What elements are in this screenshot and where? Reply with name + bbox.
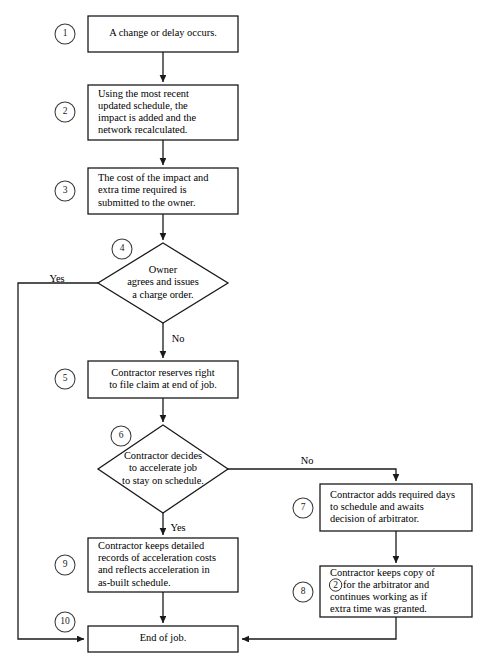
node-text-line: to stay on schedule. <box>122 475 204 486</box>
branch-label-no4: No <box>172 333 185 344</box>
node-text-line: impact is added and the <box>98 112 196 123</box>
flow-node-5[interactable]: Contractor reserves rightto file claim a… <box>55 361 238 398</box>
nodes-layer: A change or delay occurs.1Using the most… <box>55 16 472 652</box>
step-badge-number-10: 10 <box>60 616 70 626</box>
step-badge-number-1: 1 <box>63 28 68 38</box>
flow-node-10[interactable]: End of job.10 <box>55 612 238 652</box>
branch-label-yes6: Yes <box>170 522 185 533</box>
step-badge-number-8: 8 <box>301 586 306 596</box>
step-badge-number-4: 4 <box>120 243 125 253</box>
node-text-line: Contractor decides <box>124 450 202 461</box>
flow-node-9[interactable]: Contractor keeps detailedrecords of acce… <box>55 538 238 592</box>
node-text-line: extra time was granted. <box>330 603 427 614</box>
flowchart-canvas: A change or delay occurs.1Using the most… <box>0 0 484 666</box>
node-text-line: agrees and issues <box>127 276 199 287</box>
node-text-line: submitted to the owner. <box>98 197 196 208</box>
connector-c8-10 <box>242 617 396 639</box>
node-text-line: continues working as if <box>330 591 428 602</box>
connector-c6-no <box>228 469 396 481</box>
node-text-line: A change or delay occurs. <box>109 27 217 38</box>
flow-node-3[interactable]: The cost of the impact andextra time req… <box>55 168 238 214</box>
branch-label-no6: No <box>301 455 314 466</box>
step-badge-number-3: 3 <box>63 185 68 195</box>
node-text-line: Contractor adds required days <box>330 489 455 500</box>
step-badge-number-5: 5 <box>63 373 68 383</box>
node-text-line: updated schedule, the <box>98 100 188 111</box>
flowchart-container: A change or delay occurs.1Using the most… <box>0 0 484 666</box>
node-text-line: and reflects acceleration in <box>98 564 210 575</box>
step-badge-number-9: 9 <box>63 559 68 569</box>
flow-node-2[interactable]: Using the most recentupdated schedule, t… <box>55 85 238 140</box>
flow-node-4[interactable]: Owneragrees and issuesa charge order.4 <box>98 239 228 323</box>
node-text-line: to accelerate job <box>129 462 197 473</box>
node-text-line: decision of arbitrator. <box>330 513 419 524</box>
branch-label-yes4: Yes <box>49 273 64 284</box>
flow-node-6[interactable]: Contractor decidesto accelerate jobto st… <box>98 425 228 513</box>
flow-node-7[interactable]: Contractor adds required daysto schedule… <box>293 484 472 531</box>
flow-node-1[interactable]: A change or delay occurs.1 <box>55 16 238 52</box>
node-text-line: network recalculated. <box>98 124 187 135</box>
node-text-line: records of acceleration costs <box>98 552 216 563</box>
flow-node-8[interactable]: Contractor keeps copy of2for the arbitra… <box>293 566 472 617</box>
node-text-line: to schedule and awaits <box>330 501 424 512</box>
step-badge-number-6: 6 <box>119 430 124 440</box>
step-badge-number-7: 7 <box>301 502 306 512</box>
node-text-line: for the arbitrator and <box>343 579 430 590</box>
step-badge-number-2: 2 <box>63 106 68 116</box>
inline-step-ref-number: 2 <box>333 580 338 590</box>
node-text-line: The cost of the impact and <box>98 172 209 183</box>
node-text-line: extra time required is <box>98 184 187 195</box>
node-text-line: End of job. <box>140 632 186 643</box>
node-text-line: Using the most recent <box>98 88 189 99</box>
node-text-line: Contractor keeps copy of <box>330 567 435 578</box>
node-text-line: Contractor keeps detailed <box>98 540 205 551</box>
node-text-line: as-built schedule. <box>98 577 171 588</box>
node-text-line: a charge order. <box>132 289 193 300</box>
connector-c4-yes <box>18 283 98 639</box>
node-text-line: to file claim at end of job. <box>109 379 217 390</box>
node-text-line: Contractor reserves right <box>111 367 214 378</box>
node-text-line: Owner <box>149 264 178 275</box>
